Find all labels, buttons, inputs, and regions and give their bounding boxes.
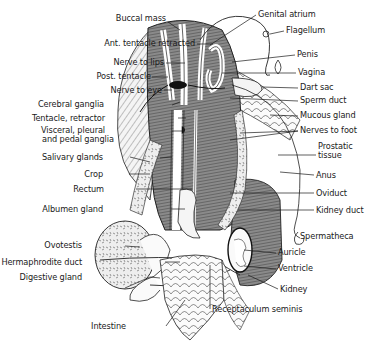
label-rectum: Rectum — [73, 185, 104, 194]
label-mucous-gland: Mucous gland — [300, 111, 356, 120]
label-crop: Crop — [84, 170, 103, 179]
label-pedal-ganglia: and pedal ganglia — [42, 135, 114, 144]
label-buccal-mass: Buccal mass — [116, 14, 166, 23]
label-vagina: Vagina — [298, 68, 325, 77]
label-digestive-gland: Digestive gland — [20, 273, 82, 282]
label-ant-tentacle-retracted: Ant. tentacle retracted — [104, 39, 195, 48]
label-kidney: Kidney — [280, 285, 307, 294]
label-spermatheca: Spermatheca — [300, 232, 354, 241]
label-kidney-duct: Kidney duct — [316, 206, 364, 215]
label-receptaculum-seminis: Receptaculum seminis — [212, 305, 302, 314]
label-nerves-to-foot: Nerves to foot — [300, 126, 357, 135]
label-ventricle: Ventricle — [278, 264, 313, 273]
label-nerve-to-eye: Nerve to eye — [110, 86, 162, 95]
label-cerebral-ganglia: Cerebral ganglia — [38, 100, 104, 109]
anatomy-figure: Buccal mass Ant. tentacle retracted Nerv… — [0, 0, 371, 344]
label-oviduct: Oviduct — [316, 189, 347, 198]
label-salivary-glands: Salivary glands — [42, 153, 103, 162]
label-intestine: Intestine — [91, 322, 126, 331]
label-post-tentacle: Post. tentacle — [97, 72, 151, 81]
label-penis: Penis — [297, 50, 318, 59]
label-hermaphrodite-duct: Hermaphrodite duct — [1, 258, 82, 267]
label-tentacle-retractor: Tentacle, retractor — [32, 114, 105, 123]
label-sperm-duct: Sperm duct — [300, 96, 346, 105]
label-nerve-to-lips: Nerve to lips — [113, 58, 164, 67]
label-ovotestis: Ovotestis — [44, 241, 82, 250]
label-tissue: tissue — [318, 151, 342, 160]
label-albumen-gland: Albumen gland — [42, 205, 103, 214]
label-genital-atrium: Genital atrium — [258, 10, 316, 19]
label-auricle: Auricle — [278, 248, 306, 257]
label-anus: Anus — [316, 171, 336, 180]
label-dart-sac: Dart sac — [300, 83, 334, 92]
label-flagellum: Flagellum — [286, 26, 325, 35]
